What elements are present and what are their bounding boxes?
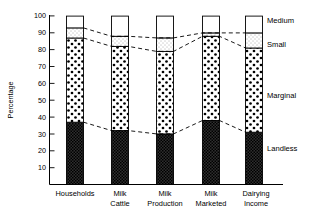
category-label-milk-cattle-line1: Milk — [113, 189, 126, 198]
y-tick-label: 60 — [38, 79, 46, 88]
y-tick-label: 90 — [38, 28, 46, 37]
bar-stack-milk-cattle[interactable] — [112, 16, 129, 184]
bar-stack-milk-marketed[interactable] — [203, 16, 220, 184]
bar-segment-small[interactable] — [203, 33, 220, 36]
bar-segment-medium[interactable] — [246, 16, 263, 33]
bar-segment-marginal[interactable] — [112, 46, 129, 130]
bar-segment-medium[interactable] — [112, 16, 129, 36]
bar-stack-milk-production[interactable] — [157, 16, 174, 184]
y-tick-label: 50 — [38, 96, 46, 105]
bar-segment-landless[interactable] — [246, 132, 263, 184]
y-tick-label: 30 — [38, 130, 46, 139]
y-tick-labels: 100 90 80 70 60 50 40 30 20 10 — [34, 11, 46, 172]
bar-segment-marginal[interactable] — [203, 36, 220, 120]
bar-segment-small[interactable] — [112, 36, 129, 46]
bar-segment-landless[interactable] — [203, 121, 220, 185]
category-label-milk-marketed-line1: Milk — [204, 189, 217, 198]
bars-group — [67, 16, 263, 184]
y-tick-label: 80 — [38, 45, 46, 54]
category-label-dairying-income-line1: Dairying — [242, 189, 269, 198]
y-tick-label: 100 — [34, 11, 46, 20]
bar-stack-households[interactable] — [67, 16, 84, 184]
bar-stack-dairying-income[interactable] — [246, 16, 263, 184]
y-tick-marks — [50, 16, 55, 168]
category-label-milk-marketed-line2: Marketed — [196, 199, 227, 208]
y-tick-label: 20 — [38, 146, 46, 155]
y-axis: 100 90 80 70 60 50 40 30 20 10 Percentag… — [6, 11, 283, 184]
series-label-small: Small — [267, 40, 286, 49]
x-axis-labels: Households Milk Cattle Milk Production M… — [55, 189, 269, 208]
bar-segment-landless[interactable] — [67, 122, 84, 184]
bar-segment-small[interactable] — [157, 38, 174, 52]
series-label-landless: Landless — [267, 144, 298, 153]
series-label-marginal: Marginal — [267, 91, 296, 100]
category-label-dairying-income-line2: Income — [244, 199, 268, 208]
category-label-milk-production-line2: Production — [147, 199, 182, 208]
bar-segment-marginal[interactable] — [157, 51, 174, 133]
bar-segment-landless[interactable] — [112, 131, 129, 185]
category-label-milk-cattle-line2: Cattle — [110, 199, 129, 208]
category-label-households: Households — [55, 189, 94, 198]
series-legend: Medium Small Marginal Landless — [267, 16, 298, 153]
bar-segment-landless[interactable] — [157, 134, 174, 185]
category-label-milk-production-line1: Milk — [158, 189, 171, 198]
stacked-bar-chart: 100 90 80 70 60 50 40 30 20 10 Percentag… — [0, 0, 311, 216]
series-label-medium: Medium — [267, 16, 294, 25]
bar-segment-small[interactable] — [246, 33, 263, 48]
y-tick-label: 70 — [38, 62, 46, 71]
bar-segment-marginal[interactable] — [67, 38, 84, 122]
y-tick-label: 40 — [38, 113, 46, 122]
bar-segment-marginal[interactable] — [246, 48, 263, 132]
bar-segment-small[interactable] — [67, 28, 84, 38]
bar-segment-medium[interactable] — [203, 16, 220, 33]
y-axis-title: Percentage — [6, 82, 15, 119]
chart-canvas: 100 90 80 70 60 50 40 30 20 10 Percentag… — [0, 0, 311, 216]
bar-segment-medium[interactable] — [67, 16, 84, 28]
y-tick-label: 10 — [38, 163, 46, 172]
bar-segment-medium[interactable] — [157, 16, 174, 38]
